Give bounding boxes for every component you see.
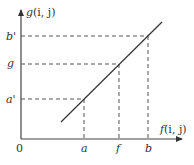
x-tick-b: b: [145, 142, 152, 155]
mapping-line: [61, 22, 162, 122]
x-axis-label: f(i, j): [159, 123, 187, 136]
y-tick-a-prime: a': [6, 93, 16, 106]
origin-label: 0: [16, 142, 23, 155]
y-tick-g: g: [7, 57, 14, 70]
y-tick-b-prime: b': [6, 30, 16, 43]
linear-mapping-diagram: g(i, j) f(i, j) 0 b' g a' a f b: [0, 0, 194, 165]
y-axis-label: g(i, j): [26, 6, 56, 19]
x-tick-f: f: [115, 142, 122, 155]
x-tick-a: a: [81, 142, 88, 155]
